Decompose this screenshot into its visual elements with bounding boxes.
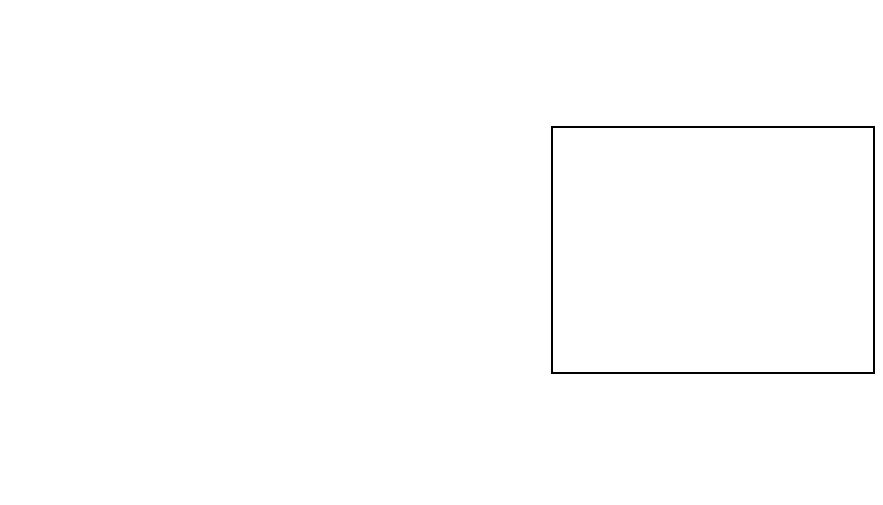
line-chart <box>0 0 883 505</box>
chart-legend <box>551 126 875 374</box>
